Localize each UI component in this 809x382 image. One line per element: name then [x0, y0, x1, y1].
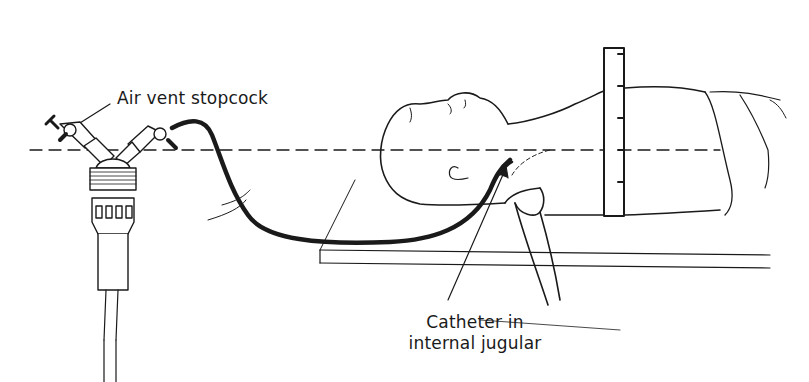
catheter-label: Catheter in internal jugular	[380, 312, 570, 354]
pressure-tubing	[172, 121, 510, 243]
patient	[381, 87, 786, 305]
air-vent-stopcock-label: Air vent stopcock	[117, 88, 268, 109]
catheter-pointer-arrow	[448, 166, 508, 300]
catheter-label-line2: internal jugular	[380, 333, 570, 354]
table	[320, 180, 770, 330]
measuring-ruler	[604, 48, 624, 216]
catheter-label-line1: Catheter in	[380, 312, 570, 333]
pressure-transducer	[46, 116, 176, 382]
